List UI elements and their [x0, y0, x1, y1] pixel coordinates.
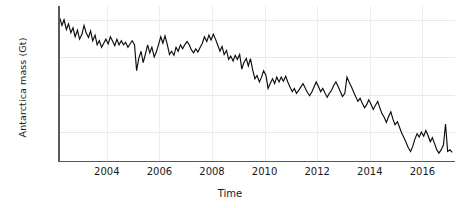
x-tick-label-2010: 2010 — [252, 166, 277, 177]
x-tick-label-2008: 2008 — [199, 166, 224, 177]
x-tick-label-2004: 2004 — [94, 166, 119, 177]
x-tick-label-2014: 2014 — [357, 166, 382, 177]
y-axis-label: Antarctica mass (Gt) — [17, 8, 28, 168]
x-tick-label-2016: 2016 — [410, 166, 435, 177]
antarctica-mass-chart: Antarctica mass (Gt) 0 −500 −1000 −1500 … — [0, 0, 460, 208]
x-axis-spine — [58, 161, 455, 163]
series-plot — [58, 6, 455, 162]
series-line-antarctica-mass — [60, 18, 452, 153]
x-tick-label-2012: 2012 — [304, 166, 329, 177]
x-axis-label: Time — [0, 188, 460, 199]
plot-area: 0 −500 −1000 −1500 2004 2006 2008 2010 2… — [58, 6, 455, 162]
x-tick-label-2006: 2006 — [147, 166, 172, 177]
y-axis-spine — [58, 6, 60, 162]
